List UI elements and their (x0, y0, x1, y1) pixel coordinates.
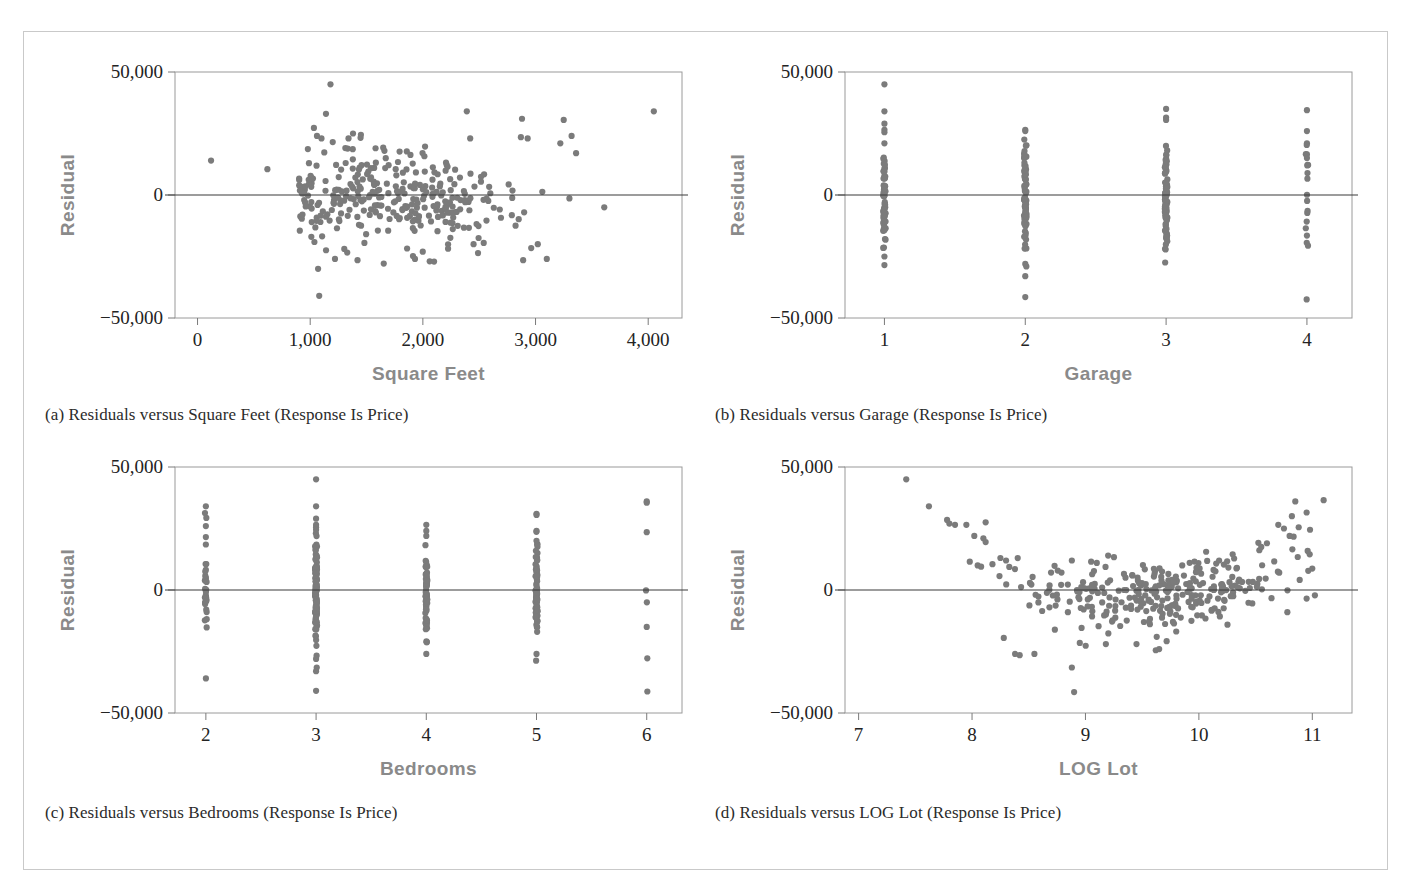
x-tick-label: 7 (854, 724, 864, 745)
y-tick-label: −50,000 (770, 307, 833, 328)
panel-b: −50,000050,0001234GarageResidual (b) Res… (710, 50, 1370, 440)
data-points (903, 476, 1327, 695)
scatter-plot-garage: −50,000050,0001234GarageResidual (710, 50, 1370, 400)
x-axis-title: LOG Lot (1059, 758, 1138, 779)
panel-caption-d: (d) Residuals versus LOG Lot (Response I… (715, 803, 1061, 823)
panel-caption-b: (b) Residuals versus Garage (Response Is… (715, 405, 1047, 425)
x-tick-label: 4 (1302, 329, 1312, 350)
data-points (202, 476, 651, 694)
x-tick-label: 2 (201, 724, 211, 745)
x-tick-label: 11 (1303, 724, 1321, 745)
x-tick-label: 8 (967, 724, 977, 745)
figure-root: −50,000050,00001,0002,0003,0004,000Squar… (0, 0, 1410, 894)
x-tick-label: 1 (880, 329, 890, 350)
y-tick-label: 50,000 (111, 61, 163, 82)
x-tick-label: 3 (1161, 329, 1171, 350)
x-tick-label: 5 (532, 724, 542, 745)
y-axis-title: Residual (727, 154, 748, 236)
x-tick-label: 3 (311, 724, 321, 745)
panel-caption-c: (c) Residuals versus Bedrooms (Response … (45, 803, 397, 823)
y-tick-label: 0 (824, 184, 834, 205)
x-tick-label: 4 (422, 724, 432, 745)
x-tick-label: 0 (193, 329, 203, 350)
x-axis-title: Square Feet (372, 363, 485, 384)
y-tick-label: 0 (154, 579, 164, 600)
x-tick-label: 1,000 (289, 329, 332, 350)
scatter-plot-log-lot: −50,000050,0007891011LOG LotResidual (710, 445, 1370, 795)
y-axis-title: Residual (727, 549, 748, 631)
y-axis-title: Residual (57, 154, 78, 236)
x-tick-label: 2 (1021, 329, 1030, 350)
y-tick-label: −50,000 (770, 702, 833, 723)
y-axis-title: Residual (57, 549, 78, 631)
y-tick-label: 50,000 (781, 456, 833, 477)
x-tick-label: 2,000 (401, 329, 444, 350)
y-tick-label: 50,000 (111, 456, 163, 477)
panel-c: −50,000050,00023456BedroomsResidual (c) … (40, 445, 700, 835)
x-tick-label: 10 (1189, 724, 1208, 745)
x-axis-title: Bedrooms (380, 758, 477, 779)
y-tick-label: 0 (824, 579, 834, 600)
x-tick-label: 3,000 (514, 329, 557, 350)
x-axis-title: Garage (1065, 363, 1133, 384)
scatter-plot-bedrooms: −50,000050,00023456BedroomsResidual (40, 445, 700, 795)
y-tick-label: −50,000 (100, 307, 163, 328)
x-tick-label: 4,000 (627, 329, 670, 350)
y-tick-label: −50,000 (100, 702, 163, 723)
data-points (208, 81, 657, 299)
panel-caption-a: (a) Residuals versus Square Feet (Respon… (45, 405, 409, 425)
x-tick-label: 9 (1081, 724, 1091, 745)
y-tick-label: 50,000 (781, 61, 833, 82)
panel-a: −50,000050,00001,0002,0003,0004,000Squar… (40, 50, 700, 440)
x-tick-label: 6 (642, 724, 652, 745)
panel-d: −50,000050,0007891011LOG LotResidual (d)… (710, 445, 1370, 835)
y-tick-label: 0 (154, 184, 164, 205)
scatter-plot-square-feet: −50,000050,00001,0002,0003,0004,000Squar… (40, 50, 700, 400)
data-points (880, 81, 1311, 302)
